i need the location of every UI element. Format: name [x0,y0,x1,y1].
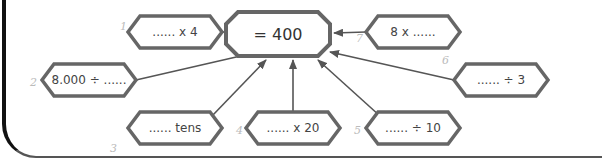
handwritten-number: 2 [29,76,37,89]
handwritten-number: 1 [120,20,127,33]
answer-box-8000-div[interactable]: 8.000 ÷ ...... [42,64,136,96]
box-label: ...... tens [149,121,202,135]
handwritten-number: 3 [110,142,117,155]
answer-box-tens[interactable]: ...... tens [128,112,222,144]
answer-box-times-20[interactable]: ...... x 20 [246,112,340,144]
handwritten-number: 6 [442,54,449,67]
arrow-tens [212,60,266,116]
box-label: ...... ÷ 10 [385,121,441,135]
center-value: = 400 [253,25,302,44]
answer-box-times-4[interactable]: ...... x 4 [128,16,222,48]
answer-box-div-3[interactable]: ...... ÷ 3 [454,64,548,96]
box-label: ...... ÷ 3 [477,73,525,87]
center-node: = 400 [226,12,330,56]
answer-box-8-times[interactable]: 8 x ...... [366,16,460,48]
box-label: 8 x ...... [390,25,435,39]
box-label: ...... x 20 [267,121,320,135]
box-label: ...... x 4 [152,25,197,39]
handwritten-number: 7 [356,32,363,45]
arrow-div-10 [318,60,380,116]
box-label: 8.000 ÷ ...... [52,73,127,87]
handwritten-number: 4 [235,124,243,137]
handwritten-number: 5 [354,124,361,137]
arrow-div-3 [330,52,454,80]
answer-box-div-10[interactable]: ...... ÷ 10 [366,112,460,144]
